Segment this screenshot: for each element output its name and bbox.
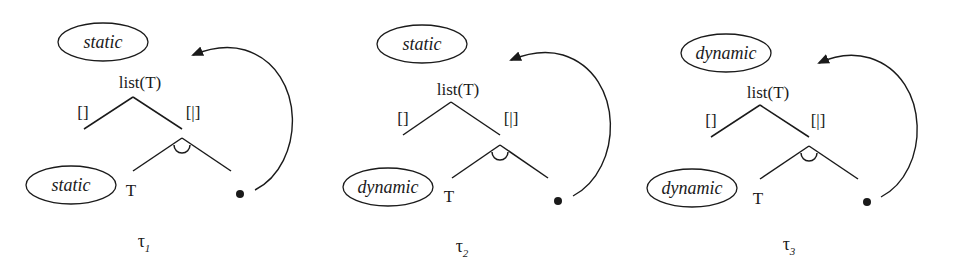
top-annotation-label: static (403, 34, 442, 54)
nil-edge-label: [] (705, 111, 716, 130)
nil-edge-label: [] (397, 109, 408, 128)
cons-head-edge (133, 138, 182, 171)
and-arc-icon (801, 153, 817, 161)
cons-edge (760, 105, 809, 137)
top-annotation-label: dynamic (696, 43, 757, 63)
type-graph-figure: static list(T) [] [|] static T τ1 static… (0, 0, 957, 273)
and-arc-icon (174, 145, 190, 153)
caption-tau-3: τ3 (783, 234, 796, 257)
and-arc-icon (492, 152, 508, 160)
cons-tail-edge (182, 138, 231, 171)
element-type-label: T (753, 189, 764, 208)
cons-edge (133, 97, 182, 129)
recursion-back-arrow (193, 48, 292, 190)
root-type-label: list(T) (437, 80, 480, 99)
recursion-node-dot (554, 197, 562, 205)
recursion-back-arrow (819, 55, 917, 197)
element-type-label: T (444, 187, 455, 206)
root-type-label: list(T) (119, 73, 162, 92)
top-annotation-label: static (84, 32, 123, 52)
type-tree-tau-2: static list(T) [] [|] dynamic T τ2 (343, 25, 610, 259)
nil-edge (84, 97, 133, 129)
cons-tail-edge (500, 145, 548, 178)
element-annotation-label: dynamic (358, 177, 419, 197)
cons-head-edge (760, 146, 809, 179)
type-tree-tau-1: static list(T) [] [|] static T τ1 (26, 23, 292, 254)
cons-edge-label: [|] (504, 109, 519, 128)
cons-edge (451, 102, 500, 135)
recursion-back-arrow (511, 53, 610, 196)
element-type-label: T (126, 181, 137, 200)
cons-edge-label: [|] (186, 103, 201, 122)
cons-head-edge (452, 145, 500, 178)
caption-tau-1: τ1 (138, 231, 151, 254)
cons-edge-label: [|] (811, 111, 826, 130)
type-tree-tau-3: dynamic list(T) [] [|] dynamic T τ3 (647, 34, 917, 257)
root-type-label: list(T) (747, 83, 790, 102)
element-annotation-label: dynamic (662, 178, 723, 198)
nil-edge (711, 105, 760, 137)
recursion-node-dot (236, 190, 244, 198)
cons-tail-edge (809, 146, 858, 179)
caption-tau-2: τ2 (456, 236, 469, 259)
nil-edge-label: [] (77, 103, 88, 122)
element-annotation-label: static (52, 175, 91, 195)
nil-edge (403, 102, 451, 135)
recursion-node-dot (863, 198, 871, 206)
